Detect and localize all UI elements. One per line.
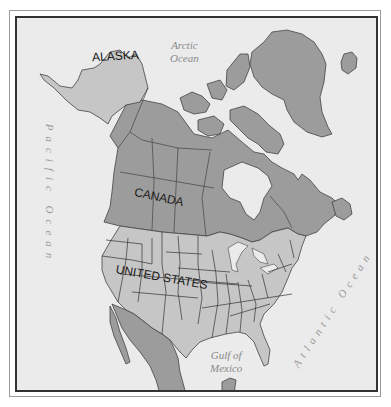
north-america-map [17,18,378,392]
arctic-line-2: Ocean [170,52,199,65]
iceland [341,52,357,74]
label-arctic-ocean: Arctic Ocean [170,39,199,65]
ellesmere-island [226,54,250,90]
arctic-islands-west [180,92,210,114]
gulf-line-1: Gulf of [210,349,242,362]
yucatan [222,378,236,392]
label-pacific-ocean: Pacific Ocean [44,124,56,265]
victoria-island [198,116,224,136]
newfoundland [332,198,352,220]
arctic-islands-mid [207,80,227,100]
united-states [102,226,306,366]
arctic-line-1: Arctic [170,39,199,52]
label-alaska: ALASKA [92,48,139,64]
map-frame: ALASKA CANADA UNITED STATES Arctic Ocean… [15,16,378,392]
label-gulf-of-mexico: Gulf of Mexico [210,349,242,375]
gulf-line-2: Mexico [210,362,242,375]
